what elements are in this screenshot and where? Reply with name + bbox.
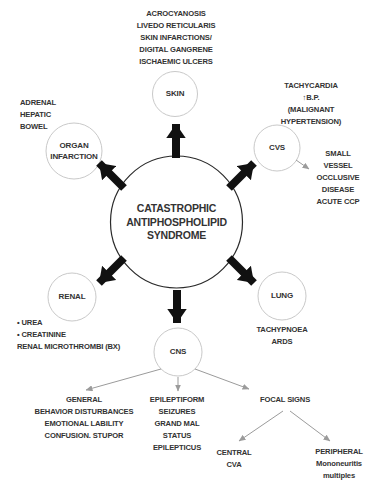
cns-focal-signs-label: FOCAL SIGNS <box>260 394 310 406</box>
line-focal-to-peripheral <box>290 411 330 441</box>
renal-node-label: RENAL <box>59 292 86 303</box>
line-cns-to-general <box>86 369 161 390</box>
cns-epileptiform-annotation: EPILEPTIFORM SEIZURES GRAND MAL STATUS E… <box>150 394 204 454</box>
caps-diagram: CATASTROPHIC ANTIPHOSPHOLIPID SYNDROME S… <box>0 0 376 492</box>
arrow-to-cvs <box>229 163 254 188</box>
cns-node-label: CNS <box>170 347 186 358</box>
focal-central-annotation: CENTRAL CVA <box>216 447 251 471</box>
arrow-to-renal <box>99 258 124 283</box>
cvs-top-annotation: TACHYCARDIA ↑B.P. (MALIGNANT HYPERTENSIO… <box>279 80 344 128</box>
center-node-label: CATASTROPHIC ANTIPHOSPHOLIPID SYNDROME <box>126 202 227 243</box>
line-cvs-to-small-vessel <box>296 160 309 169</box>
lung-annotation: TACHYPNOEA ARDS <box>256 324 307 348</box>
arrow-to-lung <box>229 258 254 283</box>
line-focal-to-central <box>239 411 283 441</box>
lung-node-label: LUNG <box>271 291 293 302</box>
organ-infarction-node-label: ORGAN INFARCTION <box>50 141 97 162</box>
organ-infarction-annotation: ADRENAL HEPATIC BOWEL <box>20 97 56 133</box>
skin-node-label: SKIN <box>166 89 185 100</box>
cvs-node-label: CVS <box>269 143 285 154</box>
cvs-side-annotation: SMALL VESSEL OCCLUSIVE DISEASE ACUTE CCP <box>317 148 360 208</box>
skin-annotation: ACROCYANOSIS LIVEDO RETICULARIS SKIN INF… <box>137 8 216 68</box>
renal-annotation: • UREA • CREATININE RENAL MICROTHROMBI (… <box>17 317 120 353</box>
cns-general-annotation: GENERAL BEHAVIOR DISTURBANCES EMOTIONAL … <box>35 394 134 442</box>
line-cns-to-focal-signs <box>195 369 249 389</box>
focal-peripheral-annotation: PERIPHERAL Mononeuritis multiples <box>315 446 362 482</box>
arrow-to-organ-infarction <box>99 163 124 188</box>
